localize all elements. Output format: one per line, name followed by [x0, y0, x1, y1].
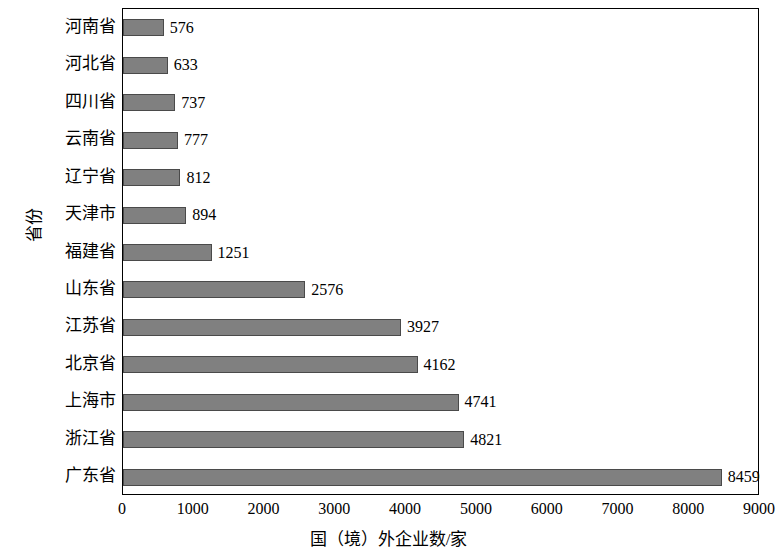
y-axis-tick-label: 上海市: [65, 390, 116, 412]
y-axis-tick-label: 山东省: [65, 278, 116, 300]
bar-value-label: 3927: [407, 318, 439, 335]
x-axis-tick-label: 9000: [743, 500, 775, 518]
bar-value-label: 737: [181, 94, 205, 111]
bar: [123, 57, 168, 74]
x-axis-tick-label: 2000: [248, 500, 280, 518]
bar: [123, 132, 178, 149]
y-axis-tick-labels: 河南省河北省四川省云南省辽宁省天津市福建省山东省江苏省北京省上海市浙江省广东省: [28, 8, 120, 495]
x-axis-tick-label: 8000: [672, 500, 704, 518]
bar: [123, 431, 464, 448]
bar: [123, 469, 722, 486]
y-axis-tick-label: 浙江省: [65, 428, 116, 450]
y-axis-tick-label: 福建省: [65, 241, 116, 263]
bar-chart: 省份 河南省河北省四川省云南省辽宁省天津市福建省山东省江苏省北京省上海市浙江省广…: [0, 0, 777, 553]
bar-value-label: 8459: [728, 468, 760, 485]
bar-value-label: 4741: [465, 393, 497, 410]
bar: [123, 244, 212, 261]
x-axis-tick-label: 3000: [318, 500, 350, 518]
bar-value-label: 4821: [470, 431, 502, 448]
x-axis-tick-label: 0: [118, 500, 126, 518]
bar: [123, 281, 305, 298]
bar-value-label: 4162: [424, 356, 456, 373]
y-axis-tick-label: 河北省: [65, 53, 116, 75]
x-axis-tick-label: 7000: [601, 500, 633, 518]
bar: [123, 356, 418, 373]
bar-value-label: 1251: [218, 244, 250, 261]
plot-area: 5766337377778128941251257639274162474148…: [122, 8, 759, 495]
bar: [123, 94, 175, 111]
bar: [123, 394, 459, 411]
x-axis-tick-label: 6000: [531, 500, 563, 518]
bar-value-label: 777: [184, 131, 208, 148]
bar: [123, 207, 186, 224]
y-axis-tick-label: 天津市: [65, 203, 116, 225]
bar-value-label: 633: [174, 56, 198, 73]
y-axis-tick-label: 江苏省: [65, 315, 116, 337]
y-axis-tick-label: 云南省: [65, 128, 116, 150]
bar: [123, 169, 180, 186]
y-axis-tick-label: 广东省: [65, 465, 116, 487]
bar-value-label: 576: [170, 19, 194, 36]
x-axis-tick-label: 1000: [177, 500, 209, 518]
x-axis-tick-label: 4000: [389, 500, 421, 518]
x-axis-tick-labels: 0100020003000400050006000700080009000: [122, 500, 759, 524]
bar: [123, 319, 401, 336]
bar-value-label: 2576: [311, 281, 343, 298]
bar: [123, 19, 164, 36]
y-axis-tick-label: 北京省: [65, 353, 116, 375]
bar-value-label: 812: [186, 169, 210, 186]
y-axis-tick-label: 河南省: [65, 16, 116, 38]
y-axis-tick-label: 辽宁省: [65, 166, 116, 188]
x-axis-tick-label: 5000: [460, 500, 492, 518]
x-axis-title: 国（境）外企业数/家: [0, 525, 777, 550]
y-axis-tick-label: 四川省: [65, 91, 116, 113]
bar-value-label: 894: [192, 206, 216, 223]
